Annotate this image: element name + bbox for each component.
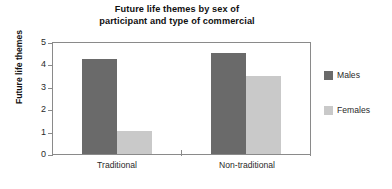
y-tick-label-3: 3 bbox=[32, 83, 46, 92]
bar-traditional-males[interactable] bbox=[82, 59, 117, 154]
x-axis-tick-right bbox=[310, 150, 311, 156]
bar-chart-figure: Future life themes by sex of participant… bbox=[0, 0, 392, 189]
legend-entry-females[interactable]: Females bbox=[324, 105, 392, 115]
females-swatch-icon bbox=[324, 106, 333, 115]
legend-entry-males[interactable]: Males bbox=[324, 70, 392, 80]
legend-label-females: Females bbox=[337, 105, 370, 115]
x-category-label-non-traditional: Non-traditional bbox=[208, 160, 286, 170]
bar-non-traditional-females[interactable] bbox=[246, 76, 281, 154]
legend-label-males: Males bbox=[337, 70, 360, 80]
plot-area bbox=[52, 42, 311, 155]
chart-legend: Males Females bbox=[324, 70, 392, 140]
bar-non-traditional-males[interactable] bbox=[211, 53, 246, 154]
x-axis-tick-middle bbox=[181, 150, 182, 156]
x-axis-tick-left bbox=[52, 150, 53, 156]
y-tick-label-0: 0 bbox=[32, 150, 46, 159]
y-tick-label-4: 4 bbox=[32, 60, 46, 69]
bar-traditional-females[interactable] bbox=[117, 131, 152, 154]
y-tick-label-2: 2 bbox=[32, 105, 46, 114]
y-tick-label-1: 1 bbox=[32, 128, 46, 137]
males-swatch-icon bbox=[324, 71, 333, 80]
chart-title-line-1: Future life themes by sex of bbox=[46, 4, 308, 16]
x-category-label-traditional: Traditional bbox=[82, 160, 152, 170]
chart-title: Future life themes by sex of participant… bbox=[46, 4, 308, 27]
chart-title-line-2: participant and type of commercial bbox=[46, 16, 308, 28]
y-tick-label-5: 5 bbox=[32, 38, 46, 47]
y-axis-title: Future life themes bbox=[14, 22, 24, 112]
